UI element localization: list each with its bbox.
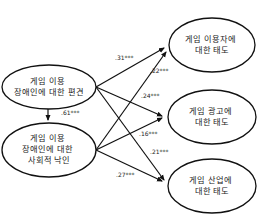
path-diagram: .61*** .31*** .22*** .24*** .16*** .21**… [0,0,260,222]
node-attitude-ads-label: 게임 광고에 대한 태도 [189,106,234,127]
coef-stigma-to-ads: .16*** [139,130,158,137]
node-stigma-line-1: 게임 이용 [30,133,65,143]
coef-prejudice-to-users: .31*** [115,54,134,61]
node-attitude-users-line-2: 대한 태도 [195,45,230,55]
coef-prejudice-to-industry: .21*** [150,148,169,155]
node-attitude-ads: 게임 광고에 대한 태도 [168,90,256,144]
node-stigma-line-3: 사회적 낙인 [28,155,71,165]
coef-prejudice-to-stigma: .61*** [61,109,80,116]
node-prejudice-line-2: 장애인에 대한 편견 [14,87,83,97]
node-stigma: 게임 이용 장애인에 대한 사회적 낙인 [2,123,96,177]
node-stigma-line-2: 장애인에 대한 [22,144,73,154]
coef-prejudice-to-ads: .24*** [141,92,160,99]
coef-stigma-to-industry: .27*** [116,171,135,178]
node-attitude-users: 게임 이용자에 대한 태도 [169,18,255,72]
node-attitude-ads-line-1: 게임 광고에 [189,106,232,116]
node-prejudice-line-1: 게임 이용 [30,76,65,86]
node-prejudice: 게임 이용 장애인에 대한 편견 [2,65,96,109]
node-attitude-industry-label: 게임 산업에 대한 태도 [189,175,234,196]
node-attitude-ads-line-2: 대한 태도 [195,117,230,127]
node-attitude-industry-line-2: 대한 태도 [195,186,230,196]
node-attitude-industry: 게임 산업에 대한 태도 [168,159,256,213]
coef-stigma-to-users: .22*** [150,67,169,74]
node-attitude-industry-line-1: 게임 산업에 [189,175,232,185]
node-attitude-users-line-1: 게임 이용자에 [185,34,236,44]
